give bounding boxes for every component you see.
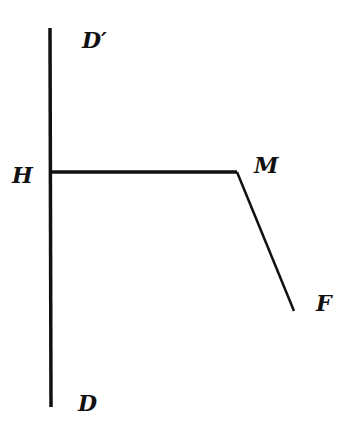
vertical-line-dd <box>50 28 51 407</box>
label-h: H <box>11 162 34 188</box>
diagram-canvas: D′ H M F D <box>0 0 356 427</box>
slanted-line-mf <box>237 172 294 311</box>
label-m: M <box>253 152 279 178</box>
label-d: D <box>77 390 97 416</box>
label-d-prime: D′ <box>81 27 107 53</box>
label-f: F <box>315 290 333 316</box>
